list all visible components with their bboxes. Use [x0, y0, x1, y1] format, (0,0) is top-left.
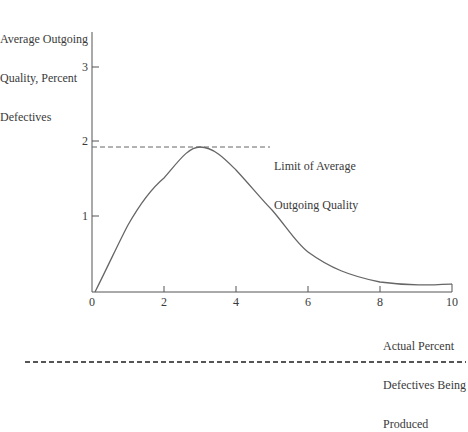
xtick-label-2: 2 — [161, 295, 167, 309]
y-axis-title-line-2: Quality, Percent — [0, 72, 88, 85]
aoql-annotation-line-1: Limit of Average — [274, 160, 358, 173]
ytick-label-1: 1 — [82, 209, 88, 223]
xtick-label-4: 4 — [233, 295, 239, 309]
xtick-label-0: 0 — [89, 295, 95, 309]
x-axis-title: Actual Percent Defectives Being Produced — [383, 314, 466, 432]
y-axis-title-line-3: Defectives — [0, 111, 88, 124]
y-ticks — [92, 67, 99, 216]
aoql-annotation: Limit of Average Outgoing Quality — [274, 134, 358, 225]
xtick-label-6: 6 — [305, 295, 311, 309]
xtick-label-10: 10 — [446, 295, 458, 309]
aoql-annotation-line-2: Outgoing Quality — [274, 199, 358, 212]
y-axis-title: Average Outgoing Quality, Percent Defect… — [0, 7, 88, 137]
x-axis-title-line-2: Defectives Being — [383, 379, 466, 392]
y-axis-title-line-1: Average Outgoing — [0, 33, 88, 46]
x-axis-title-line-3: Produced — [383, 418, 466, 431]
xtick-label-8: 8 — [377, 295, 383, 309]
x-axis-title-line-1: Actual Percent — [383, 340, 466, 353]
